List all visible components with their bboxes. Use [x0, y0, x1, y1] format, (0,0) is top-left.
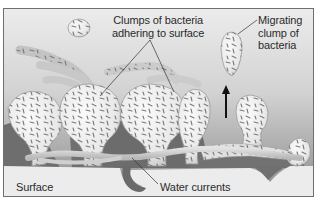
- surface-label: Surface: [16, 181, 53, 194]
- clumps-label-line2: adhering to surface: [112, 27, 204, 40]
- floating-clump-small: [68, 19, 90, 37]
- clumps-label-line1: Clumps of bacteria: [112, 14, 204, 27]
- migrating-label-line3: bacteria: [258, 39, 302, 52]
- water-currents-label: Water currents: [160, 181, 230, 194]
- migrating-label-line2: clump of: [258, 27, 302, 40]
- migrating-label: Migrating clump of bacteria: [258, 14, 302, 52]
- clumps-label: Clumps of bacteria adhering to surface: [112, 14, 204, 39]
- migrating-label-line1: Migrating: [258, 14, 302, 27]
